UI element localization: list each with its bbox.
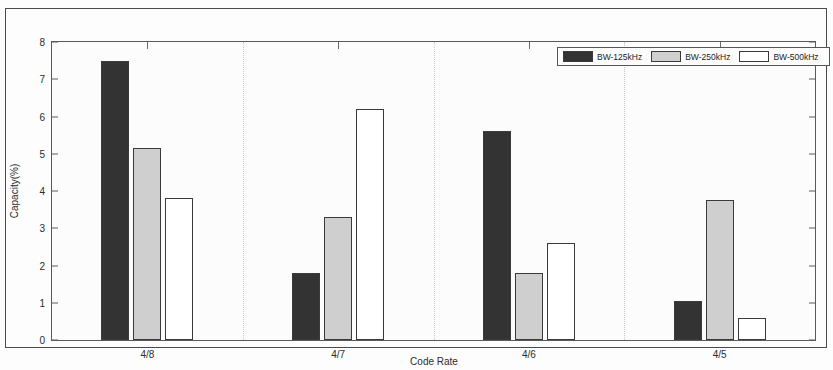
y-axis-tick-right [809, 340, 815, 341]
bar-4-5-BW-500kHz [738, 318, 766, 340]
legend-entry: BW-125kHz [561, 51, 649, 62]
bar-4-8-BW-250kHz [133, 148, 161, 340]
legend-swatch-icon [651, 51, 681, 62]
legend-swatch-icon [563, 51, 593, 62]
y-axis-tick-right [809, 191, 815, 192]
y-axis-tick-label: 0 [39, 335, 45, 346]
chart-legend: BW-125kHzBW-250kHzBW-500kHz [557, 47, 830, 66]
x-axis-tick-label: 4/5 [713, 349, 727, 360]
bar-4-8-BW-500kHz [165, 198, 193, 340]
y-axis-tick-label: 2 [39, 260, 45, 271]
y-axis-tick [52, 79, 58, 80]
bar-4-5-BW-125kHz [674, 301, 702, 340]
grid-line [243, 42, 244, 340]
y-axis-tick-right [809, 42, 815, 43]
bar-4-6-BW-125kHz [483, 131, 511, 340]
bar-4-6-BW-500kHz [547, 243, 575, 340]
y-axis-tick-label: 7 [39, 74, 45, 85]
x-axis-tick-top [338, 42, 339, 49]
y-axis-tick-right [809, 153, 815, 154]
y-axis-tick [52, 228, 58, 229]
bar-4-7-BW-125kHz [292, 273, 320, 340]
x-axis-tick-label: 4/8 [140, 349, 154, 360]
y-axis-tick [52, 116, 58, 117]
bar-4-5-BW-250kHz [706, 200, 734, 340]
y-axis-tick [52, 302, 58, 303]
y-axis-tick-label: 4 [39, 186, 45, 197]
plot-area: 012345678 4/84/74/64/5 [51, 41, 816, 341]
y-axis-title: Capacity(%) [9, 164, 20, 218]
y-axis-tick [52, 340, 58, 341]
y-axis-tick-label: 3 [39, 223, 45, 234]
y-axis-tick-label: 5 [39, 148, 45, 159]
y-axis-tick-right [809, 228, 815, 229]
y-axis-tick-right [809, 79, 815, 80]
legend-entry: BW-250kHz [649, 51, 737, 62]
y-axis-tick-label: 8 [39, 37, 45, 48]
bar-4-7-BW-250kHz [324, 217, 352, 340]
bar-4-8-BW-125kHz [101, 61, 129, 340]
x-axis-tick-top [147, 42, 148, 49]
y-axis-tick-label: 1 [39, 297, 45, 308]
x-axis-title: Code Rate [410, 356, 458, 367]
x-axis-tick-label: 4/7 [331, 349, 345, 360]
figure-frame: Capacity(%) Code Rate 012345678 4/84/74/… [5, 8, 827, 348]
x-axis-tick-label: 4/6 [522, 349, 536, 360]
legend-label: BW-500kHz [773, 52, 818, 62]
y-axis-tick [52, 265, 58, 266]
bar-4-6-BW-250kHz [515, 273, 543, 340]
y-axis-tick [52, 42, 58, 43]
y-axis-tick-label: 6 [39, 111, 45, 122]
figure-container: Capacity(%) Code Rate 012345678 4/84/74/… [0, 0, 833, 370]
legend-entry: BW-500kHz [737, 51, 825, 62]
plot-inner: 012345678 [52, 42, 815, 340]
bar-4-7-BW-500kHz [356, 109, 384, 340]
y-axis-tick-right [809, 302, 815, 303]
legend-label: BW-125kHz [597, 52, 642, 62]
legend-label: BW-250kHz [685, 52, 730, 62]
y-axis-tick [52, 191, 58, 192]
y-axis-tick-right [809, 116, 815, 117]
legend-swatch-icon [739, 51, 769, 62]
x-axis-tick-top [529, 42, 530, 49]
y-axis-tick-right [809, 265, 815, 266]
grid-line [434, 42, 435, 340]
y-axis-tick [52, 153, 58, 154]
grid-line [624, 42, 625, 340]
